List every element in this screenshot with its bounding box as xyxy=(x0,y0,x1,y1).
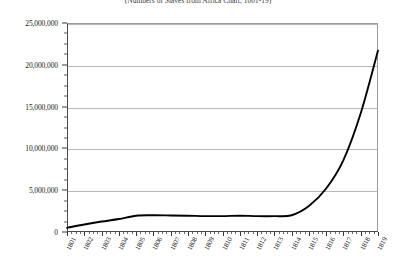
x-axis-tick-label: 1801 xyxy=(65,236,78,252)
x-axis-minor-tick xyxy=(248,232,249,234)
x-axis-minor-tick xyxy=(166,232,167,234)
x-axis-minor-tick xyxy=(235,232,236,234)
x-axis-minor-tick xyxy=(214,232,215,234)
x-axis-minor-tick xyxy=(266,232,267,234)
x-axis-minor-tick xyxy=(356,232,357,234)
x-axis: 1801180218031804180518061807180818091810… xyxy=(0,0,396,274)
x-axis-minor-tick xyxy=(210,232,211,234)
x-axis-tick-label: 1815 xyxy=(306,236,319,252)
x-axis-major-tick xyxy=(378,232,379,236)
x-axis-minor-tick xyxy=(365,232,366,234)
x-axis-minor-tick xyxy=(348,232,349,234)
x-axis-minor-tick xyxy=(318,232,319,234)
x-axis-minor-tick xyxy=(179,232,180,234)
x-axis-major-tick xyxy=(119,232,120,236)
x-axis-minor-tick xyxy=(369,232,370,234)
x-axis-minor-tick xyxy=(261,232,262,234)
x-axis-major-tick xyxy=(171,232,172,236)
x-axis-minor-tick xyxy=(231,232,232,234)
x-axis-minor-tick xyxy=(227,232,228,234)
x-axis-minor-tick xyxy=(244,232,245,234)
x-axis-tick-label: 1817 xyxy=(341,236,354,252)
x-axis-minor-tick xyxy=(253,232,254,234)
x-axis-major-tick xyxy=(102,232,103,236)
x-axis-minor-tick xyxy=(145,232,146,234)
x-axis-minor-tick xyxy=(110,232,111,234)
x-axis-minor-tick xyxy=(123,232,124,234)
x-axis-major-tick xyxy=(205,232,206,236)
x-axis-major-tick xyxy=(153,232,154,236)
x-axis-minor-tick xyxy=(201,232,202,234)
x-axis-minor-tick xyxy=(374,232,375,234)
x-axis-minor-tick xyxy=(192,232,193,234)
x-axis-minor-tick xyxy=(218,232,219,234)
x-axis-minor-tick xyxy=(287,232,288,234)
x-axis-tick-label: 1808 xyxy=(186,236,199,252)
x-axis-tick-label: 1804 xyxy=(116,236,129,252)
x-axis-minor-tick xyxy=(352,232,353,234)
x-axis-tick-label: 1803 xyxy=(99,236,112,252)
x-axis-major-tick xyxy=(136,232,137,236)
x-axis-tick-label: 1816 xyxy=(324,236,337,252)
x-axis-major-tick xyxy=(223,232,224,236)
x-axis-major-tick xyxy=(309,232,310,236)
x-axis-tick-label: 1814 xyxy=(289,236,302,252)
x-axis-tick-label: 1811 xyxy=(238,236,251,252)
x-axis-tick-label: 1805 xyxy=(134,236,147,252)
x-axis-minor-tick xyxy=(89,232,90,234)
x-axis-major-tick xyxy=(188,232,189,236)
x-axis-minor-tick xyxy=(76,232,77,234)
x-axis-minor-tick xyxy=(97,232,98,234)
x-axis-minor-tick xyxy=(339,232,340,234)
x-axis-major-tick xyxy=(240,232,241,236)
x-axis-tick-label: 1809 xyxy=(203,236,216,252)
x-axis-minor-tick xyxy=(296,232,297,234)
x-axis-minor-tick xyxy=(115,232,116,234)
x-axis-minor-tick xyxy=(149,232,150,234)
x-axis-minor-tick xyxy=(330,232,331,234)
x-axis-major-tick xyxy=(257,232,258,236)
x-axis-major-tick xyxy=(274,232,275,236)
x-axis-minor-tick xyxy=(127,232,128,234)
x-axis-tick-label: 1810 xyxy=(220,236,233,252)
x-axis-tick-label: 1807 xyxy=(168,236,181,252)
x-axis-minor-tick xyxy=(162,232,163,234)
x-axis-tick-label: 1806 xyxy=(151,236,164,252)
x-axis-minor-tick xyxy=(106,232,107,234)
x-axis-minor-tick xyxy=(197,232,198,234)
x-axis-minor-tick xyxy=(335,232,336,234)
x-axis-minor-tick xyxy=(140,232,141,234)
x-axis-major-tick xyxy=(326,232,327,236)
x-axis-tick-label: 1813 xyxy=(272,236,285,252)
x-axis-major-tick xyxy=(292,232,293,236)
x-axis-tick-label: 1819 xyxy=(376,236,389,252)
x-axis-minor-tick xyxy=(270,232,271,234)
x-axis-minor-tick xyxy=(80,232,81,234)
x-axis-minor-tick xyxy=(279,232,280,234)
x-axis-major-tick xyxy=(84,232,85,236)
x-axis-minor-tick xyxy=(300,232,301,234)
x-axis-major-tick xyxy=(343,232,344,236)
chart-container: (Numbers of Slaves from Africa Chart, 18… xyxy=(0,0,396,274)
x-axis-tick-label: 1812 xyxy=(255,236,268,252)
x-axis-minor-tick xyxy=(305,232,306,234)
x-axis-minor-tick xyxy=(175,232,176,234)
x-axis-minor-tick xyxy=(71,232,72,234)
x-axis-major-tick xyxy=(67,232,68,236)
x-axis-minor-tick xyxy=(93,232,94,234)
x-axis-major-tick xyxy=(361,232,362,236)
x-axis-minor-tick xyxy=(313,232,314,234)
x-axis-minor-tick xyxy=(283,232,284,234)
x-axis-tick-label: 1802 xyxy=(82,236,95,252)
x-axis-minor-tick xyxy=(158,232,159,234)
x-axis-minor-tick xyxy=(184,232,185,234)
x-axis-minor-tick xyxy=(132,232,133,234)
x-axis-minor-tick xyxy=(322,232,323,234)
x-axis-tick-label: 1818 xyxy=(358,236,371,252)
